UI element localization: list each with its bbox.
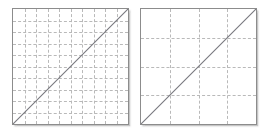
identity-line-path: [13, 9, 128, 124]
chart-panel-coarse-grid: [140, 8, 257, 125]
chart-panel-fine-grid: [12, 8, 129, 125]
figure-container: [0, 0, 266, 131]
diagonal-line-coarse: [141, 9, 256, 124]
identity-line-path: [141, 9, 256, 124]
plot-area-coarse: [141, 9, 256, 124]
diagonal-line-fine: [13, 9, 128, 124]
plot-area-fine: [13, 9, 128, 124]
